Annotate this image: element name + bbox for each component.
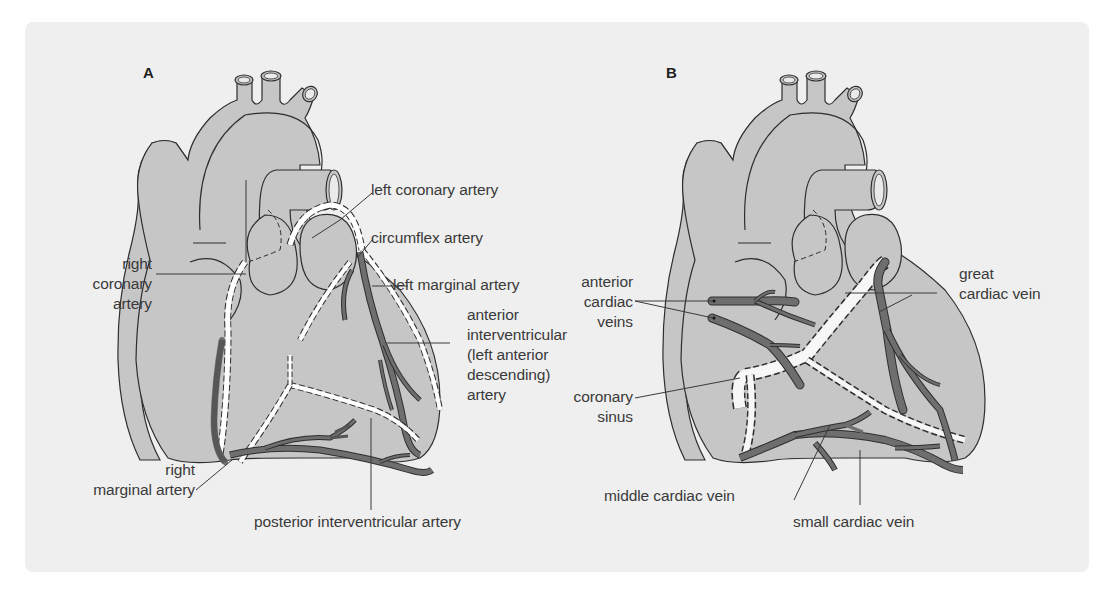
label-line: coronary <box>60 274 152 294</box>
label-right-coronary-artery: right coronary artery <box>60 254 152 314</box>
label-line: marginal artery <box>60 480 195 500</box>
label-left-marginal-artery: left marginal artery <box>393 275 519 295</box>
label-anterior-interventricular-artery: anterior interventricular (left anterior… <box>467 305 567 405</box>
heart-b-veins <box>635 71 985 505</box>
label-middle-cardiac-vein: middle cardiac vein <box>604 486 735 506</box>
label-posterior-interventricular-artery: posterior interventricular artery <box>254 512 461 532</box>
label-line: interventricular <box>467 325 567 345</box>
label-circumflex-artery: circumflex artery <box>371 228 483 248</box>
label-left-coronary-artery: left coronary artery <box>371 180 498 200</box>
panel-letter-b: B <box>666 64 677 81</box>
label-small-cardiac-vein: small cardiac vein <box>793 512 914 532</box>
label-line: artery <box>60 294 152 314</box>
label-line: cardiac <box>570 292 633 312</box>
panel-letter-a: A <box>143 64 154 81</box>
label-line: veins <box>570 312 633 332</box>
label-line: sinus <box>560 407 633 427</box>
label-line: right <box>60 460 195 480</box>
label-line: (left anterior <box>467 345 567 365</box>
label-line: anterior <box>570 272 633 292</box>
label-line: coronary <box>560 387 633 407</box>
heart-diagram-illustration <box>0 0 1114 599</box>
label-line: right <box>60 254 152 274</box>
label-line: artery <box>467 385 567 405</box>
label-coronary-sinus: coronary sinus <box>560 387 633 427</box>
label-line: great <box>959 264 1041 284</box>
label-line: cardiac vein <box>959 284 1041 304</box>
label-line: anterior <box>467 305 567 325</box>
label-anterior-cardiac-veins: anterior cardiac veins <box>570 272 633 332</box>
label-right-marginal-artery: right marginal artery <box>60 460 195 500</box>
label-line: descending) <box>467 365 567 385</box>
label-great-cardiac-vein: great cardiac vein <box>959 264 1041 304</box>
